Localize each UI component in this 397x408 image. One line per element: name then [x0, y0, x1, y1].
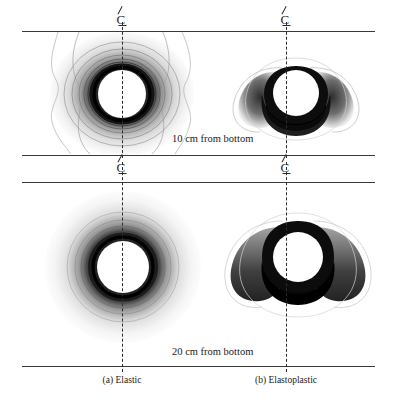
plot-bottom-left-elastic [28, 183, 218, 358]
centerline-dashed-bottom-left [122, 162, 123, 372]
plot-bottom-right-elastoplastic [218, 187, 375, 357]
frame-rule-bottom [22, 366, 375, 367]
depth-label-bottom: 20 cm from bottom [172, 346, 253, 357]
subcaption-elastic: (a) Elastic [103, 375, 142, 385]
subcaption-elastoplastic: (b) Elastoplastic [255, 375, 317, 385]
frame-rule-mid-upper [22, 155, 375, 156]
panel-band-top: 10 cm from bottom [22, 32, 375, 154]
centerline-dashed-bottom-right [286, 162, 287, 372]
figure-contour-panels: C C [0, 0, 397, 408]
centerline-dashed-top-right [286, 22, 287, 158]
depth-label-top: 10 cm from bottom [172, 133, 253, 144]
panel-band-bottom: 20 cm from bottom [22, 183, 375, 365]
centerline-dashed-top-left [122, 22, 123, 158]
